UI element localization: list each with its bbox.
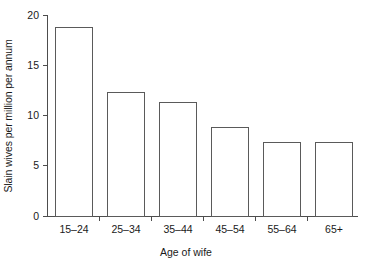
- x-tick-marks: [100, 217, 308, 221]
- x-tick-label: 25–34: [111, 223, 140, 235]
- y-tick-label: 5: [33, 159, 39, 171]
- bar: [108, 93, 145, 217]
- bar: [212, 127, 249, 216]
- bar-chart-figure: Slain wives per million per annum 20 15 …: [0, 0, 372, 272]
- y-tick-label: 0: [33, 210, 39, 222]
- bar: [160, 103, 197, 217]
- y-tick-label: 20: [27, 9, 39, 21]
- bar: [56, 28, 93, 217]
- x-tick-label: 55–64: [267, 223, 296, 235]
- x-tick-label: 15–24: [59, 223, 88, 235]
- plot-area: 20 15 10 5 0 15–2425–3435–4445–5455–6465…: [0, 0, 372, 272]
- bar: [264, 142, 301, 216]
- y-tick-label: 10: [27, 109, 39, 121]
- x-axis-title: Age of wife: [0, 246, 372, 258]
- y-tick-labels: 20 15 10 5 0: [27, 9, 39, 222]
- bar: [316, 142, 353, 216]
- y-tick-marks: [43, 16, 47, 217]
- y-tick-label: 15: [27, 59, 39, 71]
- x-tick-label: 65+: [325, 223, 343, 235]
- x-tick-labels: 15–2425–3435–4445–5455–6465+: [59, 223, 343, 235]
- bars-group: [56, 28, 353, 217]
- x-tick-label: 35–44: [163, 223, 192, 235]
- x-tick-label: 45–54: [215, 223, 244, 235]
